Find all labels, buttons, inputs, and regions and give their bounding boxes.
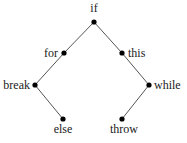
tree-node-for: for [44, 46, 67, 60]
node-label: else [54, 122, 73, 136]
tree-edges [35, 22, 149, 119]
tree-node-throw: throw [110, 116, 138, 136]
tree-nodes: ifforthisbreakwhileelsethrow [3, 1, 180, 136]
tree-node-break: break [3, 78, 37, 92]
tree-node-if: if [90, 1, 97, 25]
node-dot [91, 19, 96, 24]
node-dot [119, 50, 124, 55]
node-label: for [44, 46, 58, 60]
edge-if-for [64, 22, 94, 53]
node-dot [146, 82, 151, 87]
tree-node-while: while [146, 78, 180, 92]
node-dot [32, 82, 37, 87]
node-label: while [154, 78, 181, 92]
tree-node-else: else [54, 116, 73, 136]
node-label: throw [110, 122, 138, 136]
edge-break-else [35, 85, 63, 119]
node-label: if [90, 1, 97, 15]
node-dot [60, 116, 65, 121]
node-dot [119, 116, 124, 121]
tree-node-this: this [119, 46, 145, 60]
tree-diagram: ifforthisbreakwhileelsethrow [0, 0, 187, 143]
edge-while-throw [122, 85, 149, 119]
node-label: this [128, 46, 146, 60]
edge-if-this [94, 22, 122, 53]
node-dot [61, 50, 66, 55]
node-label: break [3, 78, 30, 92]
